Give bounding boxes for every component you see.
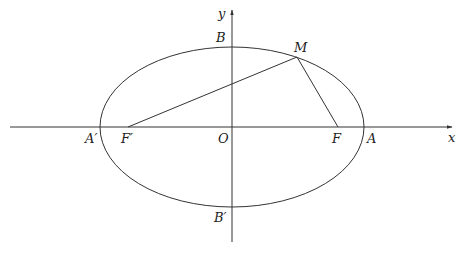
left-vertex-label: A′	[84, 131, 97, 146]
segment-m-right-focus	[297, 57, 338, 127]
right-vertex-label: A	[366, 131, 376, 146]
left-focus-label: F′	[120, 131, 133, 146]
y-axis-label: y	[217, 6, 226, 21]
bottom-vertex-label: B′	[213, 210, 227, 225]
point-m-label: M	[293, 40, 308, 55]
top-vertex-label: B	[215, 30, 226, 45]
ellipse-diagram: y x B B′ M O A′ F′ F A	[0, 0, 462, 254]
x-axis-label: x	[448, 130, 456, 145]
right-focus-label: F	[331, 131, 342, 146]
segment-m-left-focus	[128, 57, 297, 127]
origin-label: O	[218, 131, 229, 146]
